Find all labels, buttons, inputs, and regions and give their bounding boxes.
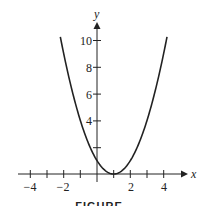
x-axis-label: x (190, 167, 197, 181)
x-tick-label: −4 (24, 180, 37, 194)
figure-caption: FIGURE (75, 200, 123, 206)
y-axis-label: y (93, 7, 100, 21)
y-tick-label: 10 (80, 34, 92, 48)
y-tick-label: 8 (86, 61, 92, 75)
y-axis-arrow-icon (94, 22, 101, 29)
parabola-chart: x y −4 −2 2 4 10 8 6 4 FIGURE (0, 0, 199, 206)
x-tick-label: 4 (161, 180, 167, 194)
y-tick-label: 6 (86, 88, 92, 102)
x-axis-arrow-icon (181, 171, 188, 178)
x-tick-label: 2 (128, 180, 134, 194)
parabola-curve (60, 37, 167, 174)
y-tick-label: 4 (86, 114, 92, 128)
x-tick-label: −2 (57, 180, 70, 194)
